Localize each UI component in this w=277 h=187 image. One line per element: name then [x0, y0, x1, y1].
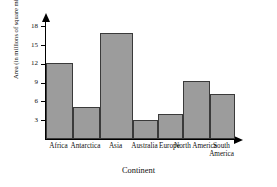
y-axis-tick-label: 3 — [22, 117, 38, 124]
y-axis-tick-label: 15 — [22, 42, 38, 49]
y-axis-tick-label: 18 — [22, 23, 38, 30]
bar-australia — [133, 120, 158, 139]
bar-south-america — [210, 94, 235, 139]
bar-chart: Area (in millions of square miles) 36912… — [0, 0, 277, 187]
bar-africa — [46, 63, 73, 139]
bar-series — [46, 14, 235, 140]
x-axis-tick-label: South America — [201, 142, 242, 158]
bar-europe — [158, 114, 183, 139]
x-axis-title: Continent — [0, 166, 277, 175]
y-axis-tick-label: 9 — [22, 79, 38, 86]
bar-asia — [100, 33, 133, 139]
bar-antarctica — [73, 107, 100, 139]
y-axis-tick-label: 12 — [22, 60, 38, 67]
y-axis-title: Area (in millions of square miles) — [12, 0, 19, 90]
y-axis-tick-label: 6 — [22, 98, 38, 105]
bar-north-america — [183, 81, 210, 139]
plot-area: 369121518 AfricaAntarcticaAsiaAustraliaE… — [45, 14, 240, 140]
